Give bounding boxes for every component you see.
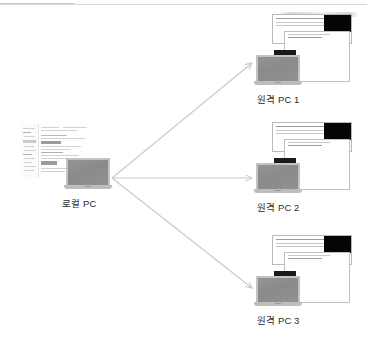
top-divider bbox=[0, 4, 367, 5]
diagram-canvas: 로컬 PC 원격 PC 1 bbox=[0, 0, 367, 339]
ide-sidebar bbox=[21, 124, 39, 178]
remote-pc-1-group bbox=[252, 14, 352, 86]
remote-pc-2-group bbox=[252, 122, 352, 194]
arrow-to-remote-3 bbox=[112, 178, 252, 288]
remote-pc-3-laptop-icon bbox=[256, 276, 300, 307]
remote-pc-3-label: 원격 PC 3 bbox=[257, 313, 299, 327]
remote-1-black-panel bbox=[324, 15, 351, 32]
remote-pc-1-label: 원격 PC 1 bbox=[257, 92, 299, 106]
top-divider-accent bbox=[0, 3, 74, 4]
remote-pc-1-laptop-icon bbox=[256, 55, 300, 86]
remote-2-black-panel bbox=[324, 123, 351, 140]
local-pc-laptop-icon bbox=[66, 158, 110, 190]
remote-pc-3-group bbox=[252, 235, 352, 307]
arrow-to-remote-1 bbox=[112, 63, 252, 178]
remote-pc-2-label: 원격 PC 2 bbox=[257, 200, 299, 214]
remote-pc-2-laptop-icon bbox=[256, 163, 300, 194]
remote-3-black-panel bbox=[324, 236, 351, 253]
local-pc-label: 로컬 PC bbox=[62, 196, 96, 210]
